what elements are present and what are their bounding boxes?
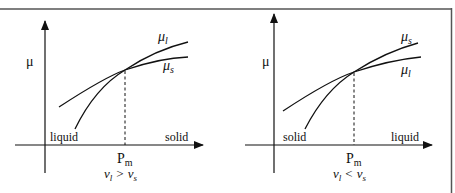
left-upper-curve-label: μl (157, 29, 168, 46)
left-condition-label: vl>vs (104, 166, 137, 183)
right-curve-mu-s (305, 43, 418, 129)
right-upper-curve-label: μs (400, 29, 412, 46)
phase-diagram-figure: μ μl μs liquid solid Pm vl>vs μ μs μl (0, 0, 455, 193)
right-y-axis-label: μ (262, 54, 270, 69)
right-phase-label-liquid: liquid (391, 130, 419, 144)
right-condition-label: vl<vs (333, 166, 366, 183)
left-curve-mu-l (75, 42, 188, 129)
left-lower-curve-label: μs (162, 58, 174, 75)
left-phase-label-solid: solid (165, 130, 188, 144)
left-panel: μ μl μs liquid solid Pm vl>vs (15, 21, 203, 183)
right-phase-label-solid: solid (283, 130, 306, 144)
right-lower-curve-label: μl (400, 62, 411, 79)
left-y-axis-label: μ (26, 54, 34, 69)
left-phase-label-liquid: liquid (50, 130, 78, 144)
right-panel: μ μs μl solid liquid Pm vl<vs (245, 14, 432, 183)
